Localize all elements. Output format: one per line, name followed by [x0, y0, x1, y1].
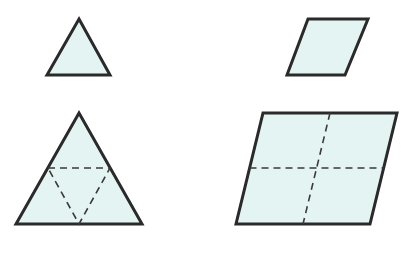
small-parallelogram: [287, 19, 368, 75]
shapes-diagram: [0, 0, 412, 254]
small-triangle: [47, 19, 110, 75]
diagram-canvas: [0, 0, 412, 254]
